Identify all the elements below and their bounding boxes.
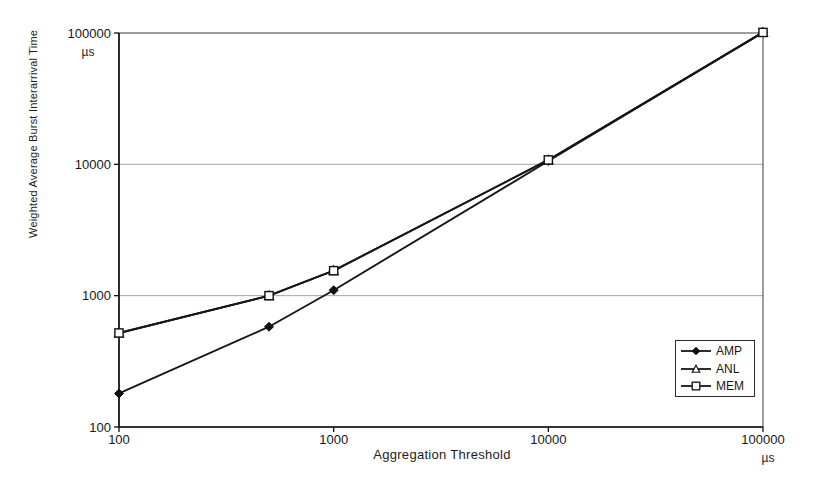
legend-item-AMP: AMP xyxy=(676,344,754,358)
series-line-MEM xyxy=(119,32,763,333)
legend-marker-filled-diamond xyxy=(692,347,700,355)
plot-border xyxy=(119,33,763,427)
marker-MEM-10000 xyxy=(544,156,552,164)
marker-MEM-1000 xyxy=(330,267,338,275)
marker-AMP-500 xyxy=(265,322,274,331)
legend-sample-open-square xyxy=(680,380,712,392)
chart-figure: 100100010000100000100100010000100000 Wei… xyxy=(0,0,820,487)
legend-sample-filled-diamond xyxy=(680,345,712,357)
legend-item-MEM: MEM xyxy=(676,379,754,393)
legend-label-AMP: AMP xyxy=(716,344,742,358)
y-tick-label-100000: 100000 xyxy=(68,26,111,41)
y-tick-label-10000: 10000 xyxy=(75,157,111,172)
marker-MEM-500 xyxy=(265,292,273,300)
plot-area: 100100010000100000100100010000100000 xyxy=(0,0,820,487)
y-tick-label-1000: 1000 xyxy=(82,288,111,303)
marker-AMP-100 xyxy=(115,389,124,398)
legend-item-ANL: ANL xyxy=(676,362,754,376)
x-tick-label-1000: 1000 xyxy=(319,432,348,447)
legend-label-MEM: MEM xyxy=(716,379,744,393)
x-axis-title: Aggregation Threshold xyxy=(342,447,542,462)
marker-MEM-100 xyxy=(115,329,123,337)
legend-sample-open-triangle xyxy=(680,363,712,375)
series-line-ANL xyxy=(119,32,763,333)
x-tick-label-100000: 100000 xyxy=(741,432,784,447)
legend: AMPANLMEM xyxy=(675,340,755,397)
series-line-AMP xyxy=(119,32,763,393)
x-tick-label-10000: 10000 xyxy=(530,432,566,447)
x-axis-unit: µs xyxy=(754,451,782,465)
marker-AMP-1000 xyxy=(329,286,338,295)
x-tick-label-100: 100 xyxy=(108,432,130,447)
legend-marker-open-square xyxy=(692,382,700,390)
legend-label-ANL: ANL xyxy=(716,362,739,376)
y-axis-unit: µs xyxy=(74,45,102,59)
marker-MEM-100000 xyxy=(759,28,767,36)
